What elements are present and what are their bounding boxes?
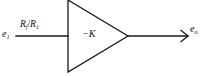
- input-signal-subscript: 1: [6, 33, 9, 40]
- gain-fraction-slash: /: [27, 19, 30, 29]
- diagram-vector-layer: [0, 0, 202, 76]
- output-signal-subscript: o: [194, 28, 197, 35]
- input-signal-label: e1: [2, 29, 10, 39]
- output-signal-label: eo: [190, 24, 198, 34]
- block-gain-label: −K: [82, 29, 95, 39]
- block-diagram-canvas: e1 Rf/R1 −K eo: [0, 0, 202, 76]
- path-gain-ratio-label: Rf/R1: [20, 20, 39, 30]
- amplifier-triangle-block: [68, 0, 128, 72]
- gain-denominator-subscript: 1: [36, 24, 39, 30]
